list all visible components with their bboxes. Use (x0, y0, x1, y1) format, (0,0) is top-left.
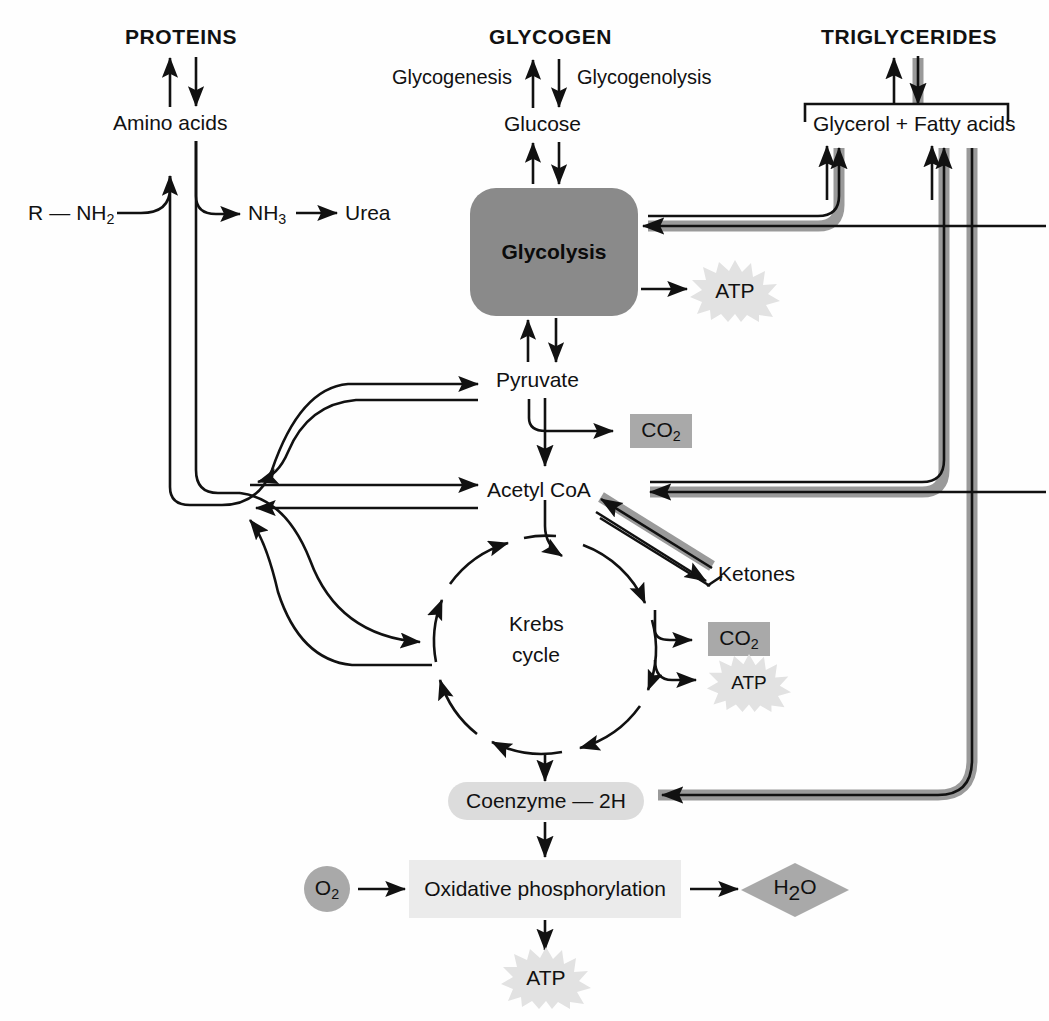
krebs-arc-1 (583, 545, 645, 603)
line-trunk-down-corner (196, 470, 240, 493)
line-trunk-up-corner (170, 487, 222, 505)
arrow-glycerol-to-glycolysis-up (648, 148, 839, 216)
krebs-arc-7 (450, 543, 508, 584)
node-glucose: Glucose (504, 113, 581, 134)
node-ketones: Ketones (718, 563, 795, 584)
h2o-label: H2O (773, 875, 816, 905)
product-co2-pyruvate: CO2 (630, 414, 692, 448)
arrow-krebs-to-atp (655, 660, 696, 680)
arrow-krebs-to-co2 (655, 610, 692, 640)
label-glycogenolysis: Glycogenolysis (577, 67, 712, 87)
r-group-label: R (28, 201, 43, 224)
co2-label-pyruvate: CO2 (641, 418, 680, 444)
glycolysis-label: Glycolysis (501, 240, 606, 264)
arrow-pyruvate-to-co2 (529, 399, 613, 431)
nh3-subscript: 3 (278, 211, 286, 227)
amine-label: NH (76, 201, 106, 224)
line-ketones-leader (600, 518, 710, 586)
atp-label-glycolysis: ATP (715, 279, 754, 303)
node-krebs-line2: cycle (512, 644, 560, 665)
product-h2o: H2O (740, 862, 850, 918)
coenzyme-label: Coenzyme — 2H (466, 789, 626, 813)
heading-glycogen: GLYCOGEN (489, 26, 612, 47)
node-glycerol-fatty-acids: Glycerol + Fatty acids (813, 113, 1015, 134)
krebs-arc-3 (580, 706, 640, 748)
node-krebs-line1: Krebs (509, 613, 564, 634)
krebs-arc-4 (492, 742, 562, 754)
bond-dash: — (43, 201, 76, 224)
amine-subscript: 2 (107, 211, 115, 227)
product-atp-oxphos: ATP (500, 945, 592, 1011)
arrow-aminoacids-to-krebs (240, 493, 420, 642)
reactant-o2: O2 (304, 866, 350, 912)
arrow-pyruvate-to-aminoacids (258, 400, 478, 482)
arrow-aminoacids-to-nh3 (196, 141, 240, 214)
node-pyruvate: Pyruvate (496, 369, 579, 390)
krebs-arc-5 (440, 680, 477, 734)
metabolic-pathway-diagram: PROTEINS GLYCOGEN TRIGLYCERIDES Amino ac… (0, 0, 1049, 1021)
arrow-rnh2-to-aminoacids (117, 176, 170, 213)
node-acetyl-coa: Acetyl CoA (487, 479, 591, 500)
heading-triglycerides: TRIGLYCERIDES (821, 26, 997, 47)
heading-proteins: PROTEINS (125, 26, 237, 47)
node-r-nh2: R—NH2 (28, 202, 114, 226)
label-glycogenesis: Glycogenesis (392, 67, 512, 87)
oxphos-label: Oxidative phosphorylation (424, 877, 666, 901)
node-urea: Urea (345, 202, 391, 223)
node-oxidative-phosphorylation: Oxidative phosphorylation (409, 860, 681, 918)
product-atp-krebs: ATP (706, 652, 792, 714)
o2-label: O2 (315, 876, 339, 902)
co2-label-krebs: CO2 (719, 626, 758, 652)
arrow-ketones-to-acetylcoa (601, 499, 712, 568)
atp-label-krebs: ATP (731, 672, 767, 694)
krebs-arc-6 (434, 600, 442, 662)
arrow-krebs-to-aminoacids (250, 520, 432, 665)
arrow-acetylcoa-to-ketones (596, 512, 706, 581)
node-amino-acids: Amino acids (113, 112, 227, 133)
product-co2-krebs: CO2 (708, 622, 770, 656)
krebs-arc-8 (524, 536, 556, 538)
nh3-label: NH (248, 201, 278, 224)
product-atp-glycolysis: ATP (689, 258, 781, 324)
atp-label-oxphos: ATP (526, 966, 565, 990)
arrow-acetylcoa-into-krebs (545, 500, 562, 556)
node-glycolysis-box: Glycolysis (470, 188, 638, 316)
node-coenzyme-2h: Coenzyme — 2H (448, 782, 644, 820)
arrow-aminoacids-to-pyruvate (222, 384, 478, 505)
node-nh3: NH3 (248, 202, 286, 226)
